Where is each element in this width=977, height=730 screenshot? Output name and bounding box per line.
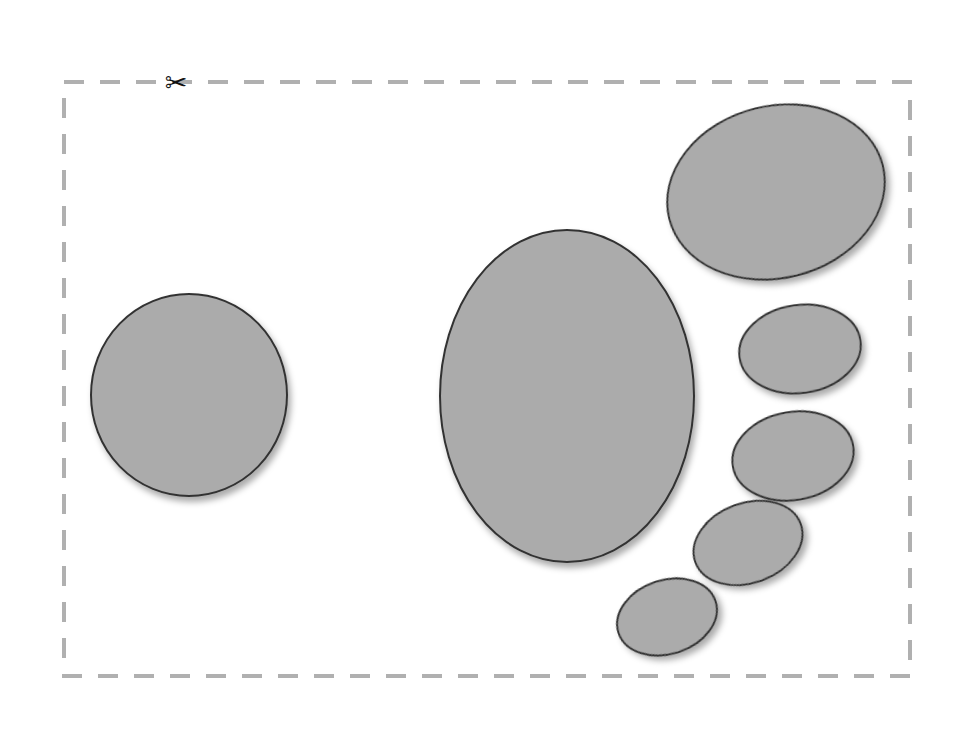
- ellipse-right-lower-small: [725, 402, 860, 510]
- ellipse-group: [91, 82, 904, 668]
- ellipse-center-largest: [440, 230, 694, 562]
- shapes-stage: [0, 0, 977, 730]
- ellipse-bottom-small: [607, 566, 727, 668]
- ellipse-lower-right-small: [682, 486, 815, 599]
- worksheet-canvas: ✂ Cut-out ellipse worksheet: [0, 0, 977, 730]
- scissors-icon: ✂: [165, 69, 188, 96]
- ellipse-right-upper-small: [733, 297, 866, 401]
- ellipse-left-large: [91, 294, 287, 496]
- ellipse-top-right: [648, 82, 903, 302]
